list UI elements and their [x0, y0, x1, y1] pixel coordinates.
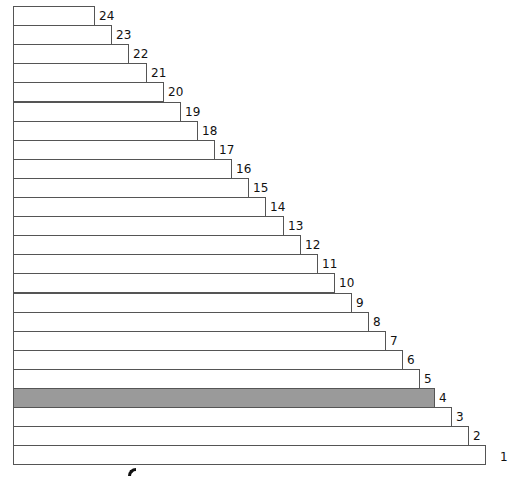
bar-label: 6: [407, 354, 415, 366]
bar-label: 4: [439, 392, 447, 404]
bar-5: [13, 369, 420, 389]
bar-label: 19: [185, 106, 200, 118]
bar-label: 21: [151, 67, 166, 79]
bar-8: [13, 312, 369, 332]
bar-label: 11: [322, 258, 337, 270]
bar-label: 17: [219, 144, 234, 156]
bar-19: [13, 102, 181, 122]
bar-label: 12: [305, 239, 320, 251]
bar-label: 15: [253, 182, 268, 194]
bar-20: [13, 82, 164, 102]
bar-18: [13, 121, 198, 141]
bar-23: [13, 25, 112, 45]
bar-label: 18: [202, 125, 217, 137]
bar-21: [13, 63, 147, 83]
bar-2: [13, 426, 469, 446]
bar-6: [13, 350, 403, 370]
curved-mark-icon: [128, 468, 136, 476]
bar-label: 20: [168, 86, 183, 98]
bar-label: 10: [339, 277, 354, 289]
bar-16: [13, 159, 232, 179]
bar-7: [13, 331, 386, 351]
bar-label: 2: [473, 430, 481, 442]
bar-label: 23: [116, 29, 131, 41]
bar-14: [13, 197, 266, 217]
bar-12: [13, 235, 301, 255]
bar-11: [13, 254, 318, 274]
bar-label: 14: [270, 201, 285, 213]
bar-15: [13, 178, 249, 198]
bar-22: [13, 44, 129, 64]
bar-9: [13, 293, 352, 313]
bar-label: 1: [500, 451, 508, 463]
staircase-diagram: 242322212019181716151413121110987654321: [13, 6, 513, 466]
bar-label: 5: [424, 373, 432, 385]
bar-24: [13, 6, 95, 26]
bar-10: [13, 273, 335, 293]
bar-3: [13, 407, 452, 427]
bar-1: [13, 445, 486, 465]
bar-label: 7: [390, 335, 398, 347]
bar-17: [13, 140, 215, 160]
bar-label: 22: [133, 48, 148, 60]
bar-13: [13, 216, 284, 236]
bar-label: 9: [356, 297, 364, 309]
bar-label: 13: [288, 220, 303, 232]
bar-label: 16: [236, 163, 251, 175]
bar-4: [13, 388, 435, 408]
bar-label: 24: [99, 10, 114, 22]
bar-label: 3: [456, 411, 464, 423]
bar-label: 8: [373, 316, 381, 328]
